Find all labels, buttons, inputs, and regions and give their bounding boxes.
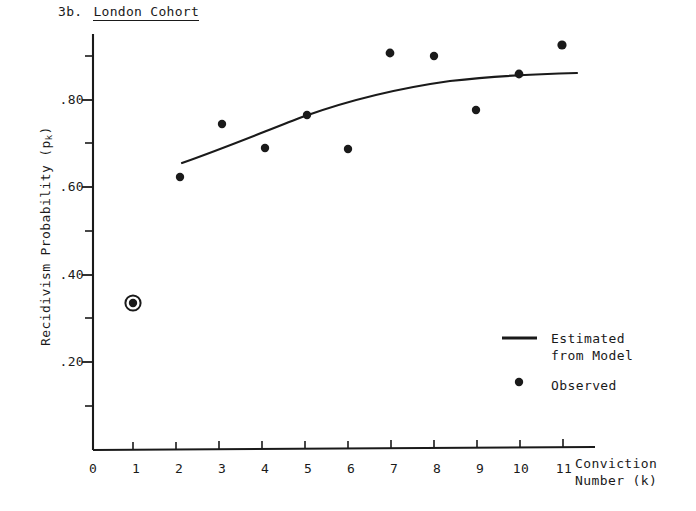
- data-point-k10: [515, 70, 524, 79]
- data-point-k4: [261, 144, 269, 152]
- observed-data-points: [125, 40, 566, 310]
- y-axis-minor-ticks: [85, 56, 93, 406]
- data-point-k6: [344, 145, 352, 153]
- legend-dot-swatch: [515, 378, 523, 386]
- figure-panel: 3b. London Cohort Recidivism Probability…: [0, 0, 696, 511]
- estimated-model-curve: [182, 73, 577, 163]
- plot-area: [0, 0, 696, 511]
- data-point-k3: [218, 120, 226, 128]
- page-caption-strip: [0, 498, 696, 511]
- data-point-k5: [303, 111, 311, 119]
- data-point-k11: [557, 40, 566, 49]
- data-point-k1: [129, 299, 137, 307]
- data-point-k7: [386, 49, 395, 58]
- data-point-k2: [176, 173, 184, 181]
- data-point-k8: [430, 52, 438, 60]
- data-point-k9: [472, 106, 480, 114]
